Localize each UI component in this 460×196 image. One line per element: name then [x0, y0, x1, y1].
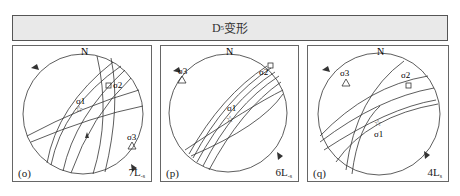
- stereonet-panel-q: N σ2 ☆ σ1 σ3 (q) 4Ls: [307, 45, 449, 182]
- compression-arrow-icon: [322, 66, 330, 72]
- stereonet-panel-o: N σ2 ☆ σ1 σ3 (o) 7L-s: [12, 45, 152, 182]
- stereonet-q: N σ2 ☆ σ1 σ3: [308, 46, 450, 183]
- sigma3-label: σ3: [178, 66, 188, 76]
- stereonet-p: N σ2 ☆ σ1 σ3: [161, 46, 300, 183]
- panel-label: (p): [166, 167, 179, 179]
- sigma3-label: σ3: [340, 68, 350, 78]
- primitive-circle: [23, 54, 143, 174]
- sigma2-label: σ2: [401, 70, 410, 80]
- sigma3-triangle-icon: [342, 79, 350, 86]
- compression-arrow-icon: [31, 64, 39, 70]
- header-title-suffix: 变形: [224, 19, 248, 37]
- sigma1-label: σ1: [374, 129, 383, 139]
- north-label: N: [81, 46, 88, 57]
- primitive-circle: [318, 53, 440, 175]
- panel-label: (q): [313, 167, 326, 179]
- compression-arrow-icon: [277, 152, 283, 160]
- header-title-main: D: [212, 21, 221, 36]
- north-label: N: [377, 46, 384, 57]
- sigma2-label: σ2: [259, 67, 268, 77]
- figure-header: D5变形: [12, 15, 448, 41]
- measurement-count: 6L-s: [275, 166, 292, 179]
- sigma2-label: σ2: [113, 80, 122, 90]
- measurement-count: 4Ls: [427, 166, 442, 179]
- sigma3-label: σ3: [127, 132, 137, 142]
- sigma2-square-icon: [106, 83, 111, 88]
- sigma1-label: σ1: [227, 103, 236, 113]
- sigma1-star-icon: ☆: [374, 118, 382, 128]
- panel-label: (o): [18, 167, 31, 179]
- stereonet-o: N σ2 ☆ σ1 σ3: [13, 46, 153, 183]
- sigma1-star-icon: ☆: [226, 114, 234, 124]
- sigma2-square-icon: [406, 83, 411, 88]
- sigma1-label: σ1: [76, 96, 85, 106]
- sigma2-square-icon: [268, 63, 273, 68]
- stereonet-panel-p: N σ2 ☆ σ1 σ3 (p) 6L-s: [160, 45, 299, 182]
- measurement-count: 7L-s: [128, 166, 145, 179]
- north-label: N: [226, 46, 233, 57]
